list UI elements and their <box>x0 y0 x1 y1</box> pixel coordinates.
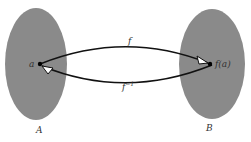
arrow-f-label: f <box>127 36 133 46</box>
arrow-f-inverse-label: f−1 <box>121 80 134 92</box>
point-fa-label: f(a) <box>214 59 231 69</box>
set-a-ellipse <box>5 8 67 120</box>
set-a-label: A <box>35 125 43 135</box>
point-fa-dot <box>208 62 212 66</box>
set-b-label: B <box>205 123 213 133</box>
point-a-dot <box>38 62 42 66</box>
function-inverse-diagram: a f(a) f f−1 A B <box>0 0 251 142</box>
inverse-superscript: −1 <box>125 80 134 87</box>
point-a-label: a <box>29 59 34 69</box>
